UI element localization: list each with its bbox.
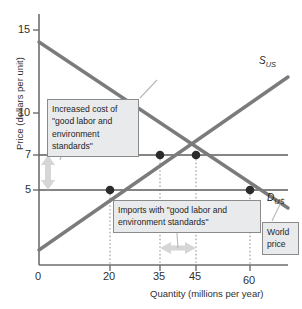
x-tick-label-60: 60 (243, 274, 255, 286)
y-axis-title: Price (dollars per unit) (14, 57, 25, 150)
supply-curve-label: SUS (259, 55, 276, 69)
marker-supply-at-7 (156, 151, 165, 160)
x-tick-label-0: 0 (35, 270, 41, 282)
world-price-annotation-box: World price (262, 222, 299, 255)
demand-curve-label-sub: US (274, 197, 284, 206)
x-tick-label-35: 35 (153, 270, 165, 282)
marker-demand-at-5 (246, 186, 255, 195)
demand-curve-label: DUS (267, 192, 285, 206)
y-tick-label-5: 5 (25, 183, 31, 195)
cost-callout-leader-top (140, 80, 157, 98)
y-tick-label-7: 7 (25, 148, 31, 160)
y-tick-label-15: 15 (18, 23, 30, 35)
cost-annotation-box: Increased cost of "good labor and enviro… (47, 99, 139, 157)
x-tick-label-20: 20 (103, 270, 115, 282)
price-increase-arrow-icon (41, 155, 55, 190)
x-tick-label-45: 45 (189, 270, 201, 282)
x-axis-title: Quantity (millions per year) (150, 288, 264, 299)
supply-curve-label-sub: US (266, 60, 276, 69)
supply-curve-label-main: S (259, 55, 266, 66)
chart-figure: 15 10 7 5 0 20 35 45 60 Price (dollars p… (0, 0, 302, 309)
marker-demand-at-7 (192, 151, 201, 160)
chart-canvas (0, 0, 302, 309)
imports-annotation-box: Imports with "good labor and environment… (113, 200, 261, 233)
marker-supply-at-5 (106, 186, 115, 195)
